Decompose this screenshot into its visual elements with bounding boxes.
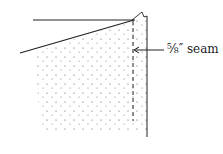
seam-label: ⅝″ seam <box>167 42 219 56</box>
seam-diagram <box>0 0 223 154</box>
